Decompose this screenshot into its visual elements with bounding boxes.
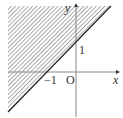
origin-label: O <box>66 73 75 87</box>
y-axis-label: y <box>64 1 71 15</box>
y-tick-label: 1 <box>79 43 85 57</box>
x-tick-label: −1 <box>44 73 57 87</box>
diagram-canvas: y x O −1 1 <box>0 0 123 118</box>
x-axis-label: x <box>112 73 119 87</box>
inequality-diagram: y x O −1 1 <box>0 0 123 118</box>
